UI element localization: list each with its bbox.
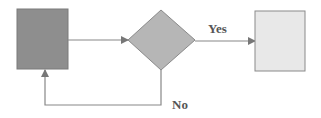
edge-no: [45, 70, 161, 105]
process-node: [17, 9, 68, 69]
end-node: [255, 11, 305, 71]
yes-label: Yes: [208, 21, 227, 36]
no-label: No: [172, 97, 188, 112]
decision-node: [128, 10, 195, 70]
flowchart-diagram: Yes No: [0, 0, 321, 118]
